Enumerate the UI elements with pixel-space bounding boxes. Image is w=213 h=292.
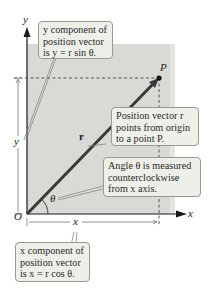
callout-x-component: x component of position vector is x = r … [15, 242, 90, 282]
angle-theta-label: θ [50, 193, 55, 204]
callout-y-component: y component of position vector is y = r … [38, 21, 113, 59]
y-axis-label: y [23, 14, 28, 25]
callout-position-vector: Position vector r points from origin to … [111, 107, 199, 146]
callout-angle-line-1: Angle θ is measured [108, 160, 196, 172]
x-span-label: x [73, 216, 78, 227]
y-axis-arrowhead [24, 27, 31, 37]
callout-y-component-line-3: is y = r sin θ. [43, 47, 108, 59]
callout-x-component-line-3: is x = r cos θ. [20, 268, 85, 280]
origin-label: O [14, 211, 22, 222]
callout-position-vector-line-2: points from origin [116, 122, 194, 134]
callout-y-component-line-1: y component of [43, 24, 108, 36]
callout-position-vector-line-3: to a point P. [116, 133, 194, 145]
point-p [156, 75, 161, 80]
vector-r-label: r [79, 131, 84, 142]
callout-angle-line-2: counterclockwise [108, 172, 196, 184]
callout-position-vector-line-1: Position vector r [116, 110, 194, 122]
callout-angle: Angle θ is measured counterclockwise fro… [103, 157, 201, 197]
point-p-label: P [160, 62, 167, 73]
callout-y-component-line-2: position vector [43, 36, 108, 48]
y-span-label: y [14, 136, 19, 147]
callout-angle-line-3: from x axis. [108, 183, 196, 195]
x-axis-arrowhead [176, 211, 187, 218]
x-axis-label: x [188, 208, 193, 219]
callout-x-component-line-2: position vector [20, 257, 85, 269]
callout-x-component-line-1: x component of [20, 245, 85, 257]
